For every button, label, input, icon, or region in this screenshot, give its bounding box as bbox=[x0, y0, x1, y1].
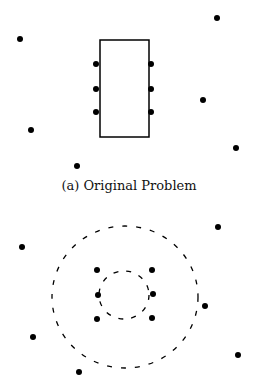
obstacle-rectangle bbox=[100, 40, 149, 137]
free-point bbox=[28, 127, 34, 133]
terminal-point bbox=[149, 315, 155, 321]
terminal-point bbox=[93, 61, 99, 67]
free-point bbox=[17, 36, 23, 42]
terminal-point bbox=[148, 109, 154, 115]
terminal-point bbox=[93, 109, 99, 115]
terminal-point bbox=[148, 86, 154, 92]
free-point bbox=[200, 97, 206, 103]
free-point bbox=[74, 163, 80, 169]
free-point bbox=[235, 352, 241, 358]
free-point bbox=[19, 244, 25, 250]
terminal-point bbox=[93, 86, 99, 92]
terminal-point bbox=[94, 316, 100, 322]
free-point bbox=[214, 15, 220, 21]
free-point bbox=[215, 224, 221, 230]
free-point bbox=[76, 369, 82, 375]
free-point bbox=[202, 303, 208, 309]
free-point bbox=[30, 334, 36, 340]
terminal-point bbox=[95, 292, 101, 298]
free-point bbox=[233, 145, 239, 151]
terminal-point bbox=[149, 267, 155, 273]
outer-dashed-circle bbox=[52, 226, 198, 368]
terminal-point bbox=[150, 291, 156, 297]
terminal-point bbox=[148, 61, 154, 67]
terminal-point bbox=[94, 267, 100, 273]
figure-caption: (a) Original Problem bbox=[0, 178, 258, 193]
inner-dashed-circle bbox=[99, 271, 149, 319]
